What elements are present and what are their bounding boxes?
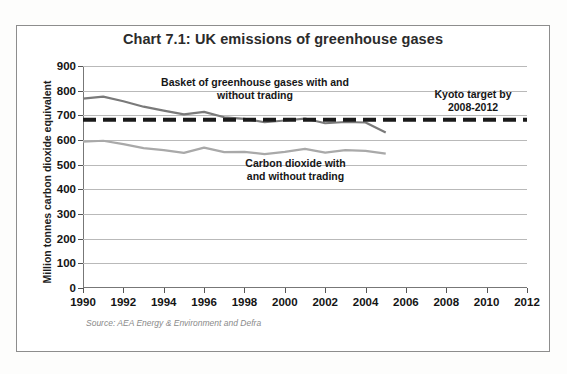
x-tick-label: 2010 (474, 296, 500, 308)
y-tick-label: 0 (70, 282, 76, 294)
y-tick-label: 200 (57, 233, 76, 245)
x-tick-mark (204, 288, 205, 293)
x-tick-label: 2008 (433, 296, 459, 308)
y-tick-label: 100 (57, 257, 76, 269)
y-tick-label: 700 (57, 109, 76, 121)
x-tick-mark (164, 288, 165, 293)
x-tick-mark (325, 288, 326, 293)
y-tick-label: 600 (57, 134, 76, 146)
y-axis-title: Million tonnes carbon dioxide equivalent (41, 62, 53, 302)
x-tick-mark (123, 288, 124, 293)
x-tick-label: 2012 (514, 296, 540, 308)
y-tick-label: 800 (57, 85, 76, 97)
x-tick-label: 2002 (312, 296, 338, 308)
page-title: Chart 7.1: UK emissions of greenhouse ga… (16, 31, 550, 47)
x-tick-mark (244, 288, 245, 293)
x-tick-mark (366, 288, 367, 293)
x-tick-label: 1990 (70, 296, 96, 308)
x-tick-mark (285, 288, 286, 293)
x-tick-mark (83, 288, 84, 293)
y-tick-label: 500 (57, 159, 76, 171)
annotation-carbon-dioxide-label: Carbon dioxide with and without trading (213, 157, 378, 183)
series-line (83, 141, 386, 154)
x-tick-label: 2006 (393, 296, 419, 308)
x-tick-label: 1994 (151, 296, 177, 308)
annotation-kyoto-target-label: Kyoto target by 2008-2012 (413, 88, 533, 114)
x-tick-label: 1998 (232, 296, 258, 308)
x-tick-mark (527, 288, 528, 293)
y-tick-label: 400 (57, 183, 76, 195)
source-note: Source: AEA Energy & Environment and Def… (86, 318, 261, 328)
annotation-basket-label: Basket of greenhouse gases with and with… (130, 76, 380, 102)
x-tick-mark (487, 288, 488, 293)
x-tick-label: 2004 (353, 296, 379, 308)
x-tick-label: 1992 (111, 296, 137, 308)
chart-page: Chart 7.1: UK emissions of greenhouse ga… (0, 0, 567, 374)
x-tick-label: 1996 (191, 296, 217, 308)
y-tick-label: 900 (57, 60, 76, 72)
y-tick-label: 300 (57, 208, 76, 220)
x-tick-label: 2000 (272, 296, 298, 308)
x-tick-mark (406, 288, 407, 293)
x-tick-mark (446, 288, 447, 293)
